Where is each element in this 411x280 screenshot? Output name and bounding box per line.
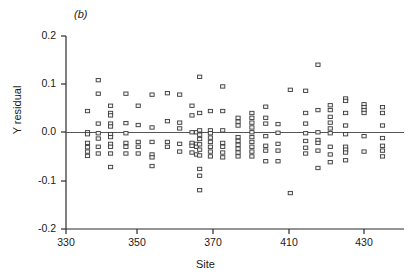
data-point-marker bbox=[316, 166, 320, 169]
data-point-marker bbox=[124, 152, 128, 155]
data-point-marker bbox=[198, 137, 202, 140]
data-point-marker bbox=[236, 135, 240, 138]
data-point-marker bbox=[136, 152, 140, 155]
data-point-marker bbox=[362, 111, 366, 114]
data-point-marker bbox=[136, 123, 140, 126]
data-point-marker bbox=[221, 109, 225, 112]
data-point-marker bbox=[108, 125, 112, 128]
data-point-marker bbox=[124, 121, 128, 124]
data-point-marker bbox=[250, 121, 254, 124]
data-point-marker bbox=[190, 151, 194, 154]
data-point-marker bbox=[250, 116, 254, 119]
data-point-marker bbox=[362, 134, 366, 137]
data-point-marker bbox=[165, 120, 169, 123]
data-point-marker bbox=[236, 147, 240, 150]
data-point-marker bbox=[264, 144, 268, 147]
data-point-marker bbox=[380, 155, 384, 158]
data-point-marker bbox=[136, 140, 140, 143]
data-point-marker bbox=[328, 104, 332, 107]
data-point-marker bbox=[316, 149, 320, 152]
data-point-marker bbox=[198, 111, 202, 114]
data-point-marker bbox=[108, 145, 112, 148]
data-point-marker bbox=[328, 145, 332, 148]
data-point-marker bbox=[304, 139, 308, 142]
data-point-marker bbox=[96, 132, 100, 135]
data-point-marker bbox=[150, 93, 154, 96]
data-point-marker bbox=[85, 146, 89, 149]
data-point-marker bbox=[236, 151, 240, 154]
data-point-marker bbox=[250, 150, 254, 153]
data-point-marker bbox=[165, 92, 169, 95]
data-point-marker bbox=[264, 122, 268, 125]
data-point-marker bbox=[190, 144, 194, 147]
data-point-marker bbox=[316, 131, 320, 134]
data-point-marker bbox=[124, 141, 128, 144]
data-point-marker bbox=[208, 136, 212, 139]
data-point-marker bbox=[236, 143, 240, 146]
data-point-marker bbox=[96, 122, 100, 125]
data-point-marker bbox=[96, 152, 100, 155]
data-point-marker bbox=[344, 111, 348, 114]
data-point-marker bbox=[236, 139, 240, 142]
data-point-marker bbox=[150, 140, 154, 143]
data-point-marker bbox=[380, 111, 384, 114]
data-point-marker bbox=[96, 78, 100, 81]
data-point-marker bbox=[178, 150, 182, 153]
scatter-plot-canvas bbox=[0, 0, 411, 280]
data-point-marker bbox=[198, 133, 202, 136]
data-point-marker bbox=[136, 145, 140, 148]
data-point-marker bbox=[124, 92, 128, 95]
data-point-marker bbox=[236, 120, 240, 123]
data-point-marker bbox=[85, 150, 89, 153]
data-point-marker bbox=[328, 161, 332, 164]
data-point-marker bbox=[208, 132, 212, 135]
data-point-marker bbox=[198, 189, 202, 192]
data-point-marker bbox=[208, 145, 212, 148]
data-point-marker bbox=[288, 191, 292, 194]
data-point-marker bbox=[198, 154, 202, 157]
data-point-marker bbox=[150, 156, 154, 159]
data-point-marker bbox=[150, 126, 154, 129]
data-point-marker bbox=[344, 133, 348, 136]
data-point-marker bbox=[276, 122, 280, 125]
data-point-marker bbox=[165, 140, 169, 143]
data-point-marker bbox=[304, 146, 308, 149]
data-point-marker bbox=[165, 145, 169, 148]
data-point-marker bbox=[250, 126, 254, 129]
data-point-marker bbox=[316, 63, 320, 66]
data-point-marker bbox=[85, 154, 89, 157]
data-point-marker bbox=[328, 153, 332, 156]
data-point-marker bbox=[264, 149, 268, 152]
data-point-marker bbox=[198, 148, 202, 151]
data-point-marker bbox=[344, 99, 348, 102]
data-point-marker bbox=[328, 108, 332, 111]
data-point-marker bbox=[221, 156, 225, 159]
data-point-marker bbox=[380, 136, 384, 139]
data-point-marker bbox=[190, 131, 194, 134]
data-point-marker bbox=[344, 151, 348, 154]
data-point-marker bbox=[96, 137, 100, 140]
data-point-marker bbox=[108, 104, 112, 107]
data-point-marker bbox=[328, 132, 332, 135]
data-point-marker bbox=[198, 167, 202, 170]
data-point-marker bbox=[250, 140, 254, 143]
data-point-marker bbox=[250, 145, 254, 148]
data-point-marker bbox=[304, 132, 308, 135]
data-point-marker bbox=[276, 142, 280, 145]
data-point-marker bbox=[264, 160, 268, 163]
data-point-marker bbox=[198, 75, 202, 78]
data-point-marker bbox=[108, 114, 112, 117]
data-point-marker bbox=[178, 121, 182, 124]
data-point-marker bbox=[178, 127, 182, 130]
data-point-marker bbox=[344, 159, 348, 162]
data-point-marker bbox=[236, 116, 240, 119]
data-point-marker bbox=[316, 141, 320, 144]
data-point-marker bbox=[304, 111, 308, 114]
data-point-marker bbox=[124, 132, 128, 135]
data-point-marker bbox=[124, 145, 128, 148]
data-point-marker bbox=[236, 124, 240, 127]
data-point-marker bbox=[380, 144, 384, 147]
data-point-marker bbox=[178, 142, 182, 145]
data-point-marker bbox=[221, 145, 225, 148]
data-point-marker bbox=[208, 109, 212, 112]
